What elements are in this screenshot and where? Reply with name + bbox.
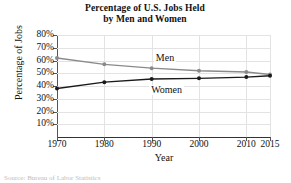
chart-title: Percentage of U.S. Jobs Held by Men and … [55, 3, 235, 25]
data-point-women [244, 75, 248, 79]
data-point-women [268, 74, 272, 78]
y-axis-tick-label: 70% [24, 43, 54, 53]
x-axis-tick-label: 1990 [132, 140, 172, 150]
y-axis-tick-label: 10% [24, 119, 54, 129]
series-label-men: Men [154, 53, 176, 63]
y-axis-tick-label: 80% [24, 30, 54, 40]
y-axis-tick-label: 40% [24, 81, 54, 91]
y-axis-tick-label: 30% [24, 94, 54, 104]
source-note: Source: Bureau of Labor Statistics [4, 174, 100, 182]
y-axis-tick-label: 20% [24, 107, 54, 117]
data-point-women [197, 76, 201, 80]
series-label-women: Women [149, 85, 184, 95]
gridline-vertical [270, 35, 271, 138]
data-point-women [55, 87, 59, 91]
data-point-men [150, 66, 154, 70]
data-point-women [150, 77, 154, 81]
chart-title-line2: by Men and Women [55, 14, 235, 25]
x-axis-tick-label: 1980 [84, 140, 124, 150]
chart-title-line1: Percentage of U.S. Jobs Held [85, 3, 205, 13]
chart-figure: Percentage of U.S. Jobs Held by Men and … [0, 0, 291, 183]
data-point-men [102, 62, 106, 66]
y-axis-tick-label: 60% [24, 56, 54, 66]
data-point-men [197, 69, 201, 73]
x-axis-label: Year [57, 152, 271, 163]
data-point-women [102, 80, 106, 84]
y-axis-tick-label: 50% [24, 68, 54, 78]
x-axis-tick-label: 2000 [179, 140, 219, 150]
data-point-men [244, 70, 248, 74]
y-axis-label: Percentage of Jobs [13, 8, 24, 118]
x-axis-tick-label: 1970 [37, 140, 77, 150]
x-axis-tick-label: 2015 [250, 140, 290, 150]
data-point-men [55, 56, 59, 60]
